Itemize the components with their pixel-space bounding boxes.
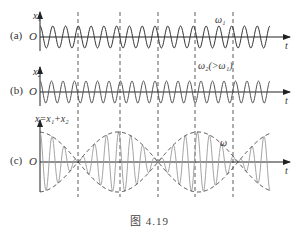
panel-c-origin: O [29, 155, 37, 167]
panel-c-y-axis-label: x=x₁+x₂ [35, 113, 69, 124]
panel-b-t-label: t [285, 95, 288, 106]
panel-b-label: (b) [10, 84, 23, 96]
panel-a-origin: O [29, 30, 37, 42]
panel-a-frequency: ω₁ [215, 14, 226, 25]
figure-caption: 图 4.19 [130, 212, 169, 228]
panel-b-y-axis-label: x₂ [33, 66, 41, 77]
panel-c-t-label: t [285, 165, 288, 176]
panel-b-frequency: ω₂(>ω₁) [198, 60, 232, 71]
panel-b-origin: O [29, 85, 37, 97]
panel-a-t-label: t [285, 40, 288, 51]
panel-c-label: (c) [10, 154, 22, 166]
panel-c-frequency: ω [220, 137, 227, 148]
panel-a-y-axis-label: x₁ [33, 10, 41, 21]
waveforms [40, 26, 270, 192]
panel-a-label: (a) [10, 29, 22, 41]
